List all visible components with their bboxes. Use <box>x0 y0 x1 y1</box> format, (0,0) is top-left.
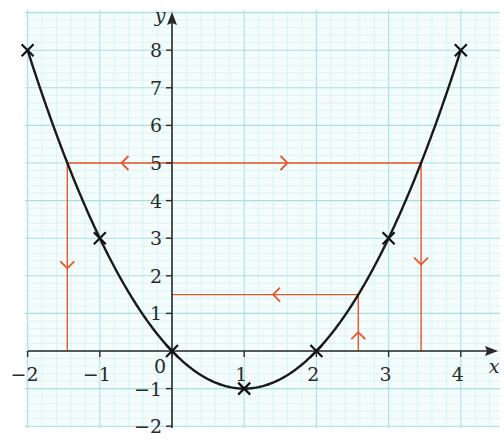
x-tick-label: −1 <box>83 363 111 385</box>
y-tick-label: 2 <box>150 265 162 287</box>
quadratic-graph: −2−101234−2−112345678xy <box>0 0 504 441</box>
x-tick-label: −2 <box>11 363 39 385</box>
y-tick-label: 7 <box>150 77 162 99</box>
y-axis-label: y <box>154 4 166 26</box>
x-tick-label: 2 <box>307 363 319 385</box>
x-tick-label: 1 <box>235 363 247 385</box>
x-tick-label: 0 <box>154 355 166 377</box>
y-tick-label: 4 <box>150 190 162 212</box>
y-tick-label: 3 <box>150 227 162 249</box>
y-tick-label: 5 <box>150 152 162 174</box>
y-tick-label: 8 <box>150 39 162 61</box>
x-tick-label: 4 <box>452 363 464 385</box>
y-tick-label: −1 <box>134 378 162 400</box>
y-tick-label: −2 <box>134 415 162 437</box>
y-tick-label: 1 <box>150 302 162 324</box>
y-tick-label: 6 <box>150 114 162 136</box>
x-axis-label: x <box>489 355 500 377</box>
x-tick-label: 3 <box>380 363 392 385</box>
